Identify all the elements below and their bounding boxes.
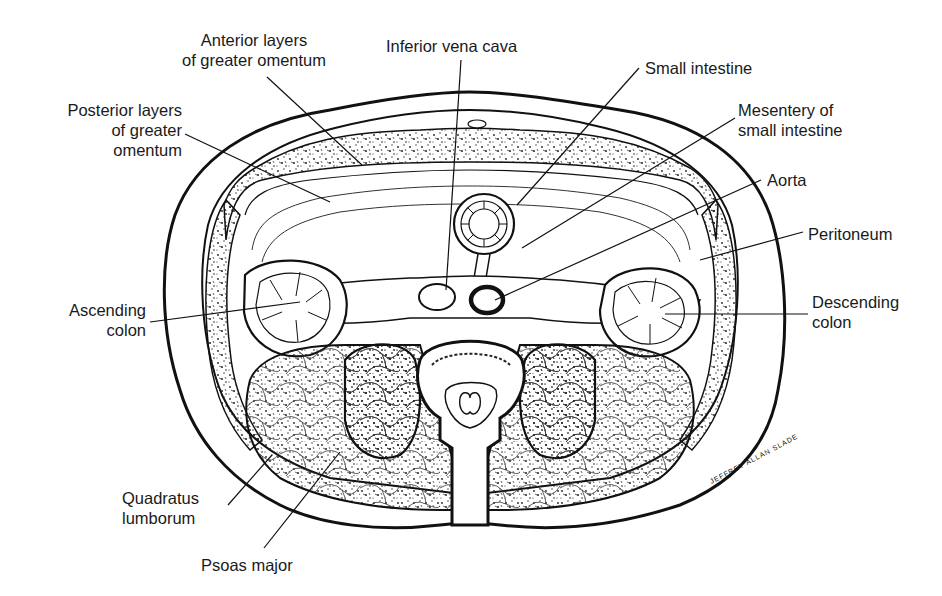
label-line: colon: [20, 320, 146, 340]
label-line: Anterior layers: [182, 30, 326, 50]
label-small-intestine: Small intestine: [645, 58, 752, 78]
label-psoas-major: Psoas major: [201, 555, 293, 575]
label-line: of greater: [32, 120, 182, 140]
label-line: Posterior layers: [32, 100, 182, 120]
label-inferior-vena-cava: Inferior vena cava: [386, 36, 517, 56]
label-line: Descending: [812, 292, 899, 312]
label-line: Quadratus: [122, 488, 199, 508]
label-line: small intestine: [738, 120, 843, 140]
label-line: Ascending: [20, 300, 146, 320]
label-quadratus-lumborum: Quadratus lumborum: [122, 488, 199, 528]
label-anterior-layers-greater-omentum: Anterior layers of greater omentum: [182, 30, 326, 70]
aorta-structure: [471, 287, 503, 313]
label-line: of greater omentum: [182, 50, 326, 70]
label-ascending-colon: Ascending colon: [20, 300, 146, 340]
label-posterior-layers-greater-omentum: Posterior layers of greater omentum: [32, 100, 182, 160]
inferior-vena-cava-structure: [419, 284, 455, 310]
label-line: colon: [812, 312, 899, 332]
psoas-major-left: [345, 344, 420, 458]
label-mesentery-of-small-intestine: Mesentery of small intestine: [738, 100, 843, 140]
label-line: Mesentery of: [738, 100, 843, 120]
label-aorta: Aorta: [767, 170, 806, 190]
ascending-colon-structure: [244, 261, 347, 357]
label-descending-colon: Descending colon: [812, 292, 899, 332]
descending-colon-structure: [600, 268, 699, 356]
label-line: omentum: [32, 140, 182, 160]
label-peritoneum: Peritoneum: [808, 224, 892, 244]
label-line: lumborum: [122, 508, 199, 528]
psoas-major-right: [520, 344, 595, 458]
